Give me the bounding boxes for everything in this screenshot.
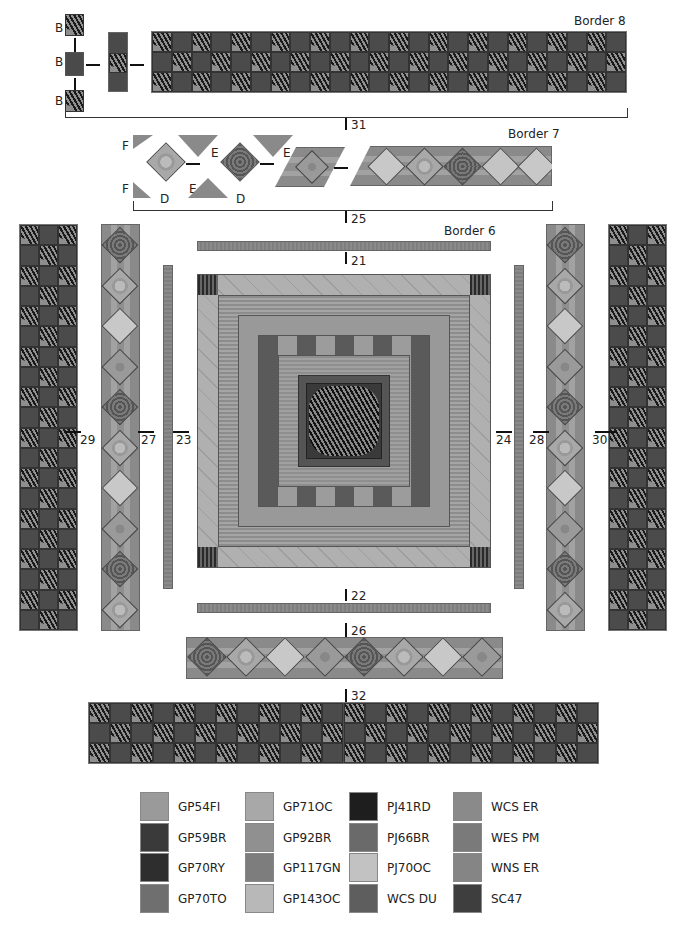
- border-8-block: [89, 703, 110, 723]
- border-7-diamond: [101, 348, 138, 385]
- border-8-block: [628, 428, 647, 448]
- border-8-block: [628, 245, 647, 265]
- border-8-block: [231, 32, 251, 52]
- border-8-left-strip: [19, 224, 78, 631]
- border-8-block: [58, 590, 77, 610]
- border-8-block: [39, 306, 58, 326]
- border-8-block: [628, 448, 647, 468]
- border-8-block: [271, 72, 291, 92]
- border-8-block: [606, 72, 626, 92]
- fabric-swatch: [453, 823, 482, 852]
- border-8-block: [192, 72, 212, 92]
- border-8-block: [609, 569, 628, 589]
- fabric-swatch: [245, 823, 274, 852]
- border-8-block: [290, 72, 310, 92]
- border-7-diamond: [101, 308, 138, 345]
- fabric-swatch: [140, 884, 169, 913]
- border-8-block: [647, 428, 666, 448]
- border-8-block: [310, 72, 330, 92]
- border-8-block: [231, 72, 251, 92]
- border-8-block: [534, 723, 555, 743]
- border-8-block: [606, 32, 626, 52]
- border-8-block: [628, 387, 647, 407]
- border-8-block: [39, 569, 58, 589]
- border-7-diamond: [226, 637, 266, 677]
- border-8-block: [609, 590, 628, 610]
- border-8-block: [152, 32, 172, 52]
- border-8-block: [647, 529, 666, 549]
- border-8-block: [211, 32, 231, 52]
- border-7-diamond: [546, 348, 583, 385]
- border-8-block: [628, 367, 647, 387]
- border-8-block: [301, 743, 322, 763]
- piece-label-e: E: [211, 147, 219, 159]
- arrow-right-icon: [334, 167, 348, 169]
- border-8-block: [344, 743, 365, 763]
- step-26: 26: [351, 625, 366, 637]
- border-8-block: [259, 743, 280, 763]
- border-6-bottom-strip: [197, 603, 491, 613]
- border-8-block: [290, 52, 310, 72]
- border-8-block: [587, 52, 607, 72]
- step-27: 27: [141, 434, 156, 446]
- piece-label-b-1: B: [55, 22, 63, 34]
- piece-label-b-3: B: [55, 95, 63, 107]
- border-8-block: [58, 225, 77, 245]
- border-8-block: [547, 32, 567, 52]
- border-8-block: [20, 509, 39, 529]
- border-8-block: [407, 723, 428, 743]
- border-8-block: [251, 52, 271, 72]
- border-8-block: [330, 72, 350, 92]
- border-8-block: [389, 72, 409, 92]
- border-7-diamond: [546, 510, 583, 547]
- border-8-block: [628, 225, 647, 245]
- border-8-block: [488, 52, 508, 72]
- border-8-block: [369, 72, 389, 92]
- border-6-label: Border 6: [444, 225, 496, 237]
- border-8-block: [110, 743, 131, 763]
- border-7-diamond: [546, 429, 583, 466]
- border-8-block: [492, 703, 513, 723]
- border-8-block: [39, 286, 58, 306]
- border-8-block: [492, 723, 513, 743]
- border-8-block: [609, 509, 628, 529]
- border-8-block: [322, 703, 343, 723]
- border-8-block: [39, 428, 58, 448]
- border-7-diamond: [101, 551, 138, 588]
- piece-label-e: E: [283, 147, 291, 159]
- fabric-code: GP143OC: [283, 893, 340, 905]
- fabric-code: WCS DU: [387, 893, 437, 905]
- border-8-block: [20, 245, 39, 265]
- border-8-block: [471, 703, 492, 723]
- border-6-left-strip: [163, 265, 173, 589]
- border-8-block: [386, 703, 407, 723]
- block-b-top: [65, 14, 84, 36]
- border-8-block: [195, 703, 216, 723]
- border-8-block: [211, 72, 231, 92]
- border-8-block: [513, 723, 534, 743]
- border-8-block: [58, 245, 77, 265]
- border-8-block: [216, 703, 237, 723]
- assembly-bracket: [65, 108, 628, 118]
- border-7-bottom-strip: [186, 637, 503, 679]
- border-8-block: [609, 367, 628, 387]
- fabric-code: SC47: [491, 893, 522, 905]
- border-8-block: [153, 703, 174, 723]
- step-25: 25: [351, 213, 366, 225]
- border-8-block: [450, 723, 471, 743]
- border-7-diamond: [101, 591, 138, 628]
- border-8-block: [468, 32, 488, 52]
- border-8-block: [488, 32, 508, 52]
- fabric-swatch: [349, 853, 378, 882]
- border-7-diamond: [546, 389, 583, 426]
- border-8-block: [58, 407, 77, 427]
- border-8-block: [492, 743, 513, 763]
- border-8-block: [20, 448, 39, 468]
- fabric-swatch: [140, 823, 169, 852]
- border-7-diamond: [101, 267, 138, 304]
- border-8-block: [606, 52, 626, 72]
- fabric-code: WES PM: [491, 832, 539, 844]
- border-8-block: [448, 32, 468, 52]
- arrow-up-icon: [345, 623, 347, 637]
- border-8-block: [172, 52, 192, 72]
